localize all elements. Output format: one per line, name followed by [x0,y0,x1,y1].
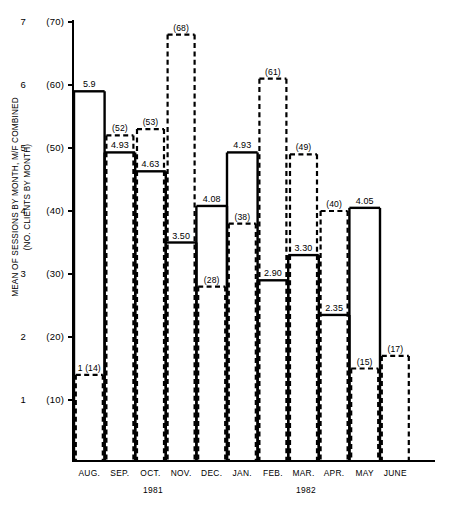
y-tick-label-left: 3 [21,268,26,279]
y-tick-label-left: 1 [21,394,26,405]
session-value-label-7: 3.30 [288,243,319,253]
x-tick-label-oct: OCT. [135,468,166,478]
plot-area [0,0,469,513]
x-tick-label-june: JUNE [380,468,411,478]
y-tick-label-left: 6 [21,79,26,90]
client-count-label-1: (52) [105,123,136,133]
client-count-label-8: (40) [319,199,350,209]
y-tick-mark [68,336,73,337]
y-tick-mark [68,210,73,211]
session-value-label-5: 4.93 [227,140,258,150]
y-tick-mark [68,399,73,400]
y-tick-label-right: (40) [46,205,64,216]
x-tick-label-feb: FEB. [258,468,289,478]
client-count-label-7: (49) [288,142,319,152]
x-tick-label-apr: APR. [319,468,350,478]
session-value-label-4: 4.08 [196,194,227,204]
session-value-label-6: 2.90 [258,268,289,278]
year-label-1982: 1982 [276,485,336,495]
y-tick-label-left: 4 [21,205,26,216]
session-value-label-0: 5.9 [74,79,105,89]
session-value-label-9: 4.05 [349,196,380,206]
y-tick-mark [68,273,73,274]
y-tick-label-right: (30) [46,268,64,279]
x-tick-label-mar: MAR. [288,468,319,478]
client-count-label-5: (38) [227,212,258,222]
session-value-label-2: 4.63 [135,159,166,169]
y-tick-label-left: 5 [21,142,26,153]
session-value-label-1: 4.93 [105,140,136,150]
session-value-label-3: 3.50 [166,231,197,241]
y-tick-label-right: (70) [46,16,64,27]
y-tick-label-right: (20) [46,331,64,342]
y-tick-label-right: (10) [46,394,64,405]
y-tick-mark [68,84,73,85]
x-tick-label-nov: NOV. [166,468,197,478]
x-tick-label-aug: AUG. [74,468,105,478]
client-count-label-4: (28) [196,275,227,285]
session-value-label-8: 2.35 [319,303,350,313]
client-count-label-6: (61) [258,67,289,77]
y-tick-mark [68,21,73,22]
x-tick-label-dec: DEC. [196,468,227,478]
y-tick-label-right: (60) [46,79,64,90]
client-count-label-0: 1 (14) [74,363,105,373]
client-count-label-9: (15) [349,357,380,367]
y-tick-label-left: 2 [21,331,26,342]
x-tick-label-sep: SEP. [105,468,136,478]
client-count-label-10: (17) [380,344,411,354]
year-label-1981: 1981 [123,485,183,495]
x-tick-label-jan: JAN. [227,468,258,478]
y-tick-mark [68,147,73,148]
chart-figure: MEAN OF SESSIONS BY MONTH, M/F COMBINED(… [0,0,469,513]
client-count-label-2: (53) [135,117,166,127]
y-tick-label-left: 7 [21,16,26,27]
x-tick-label-may: MAY [349,468,380,478]
client-count-label-3: (68) [166,23,197,33]
y-tick-label-right: (50) [46,142,64,153]
